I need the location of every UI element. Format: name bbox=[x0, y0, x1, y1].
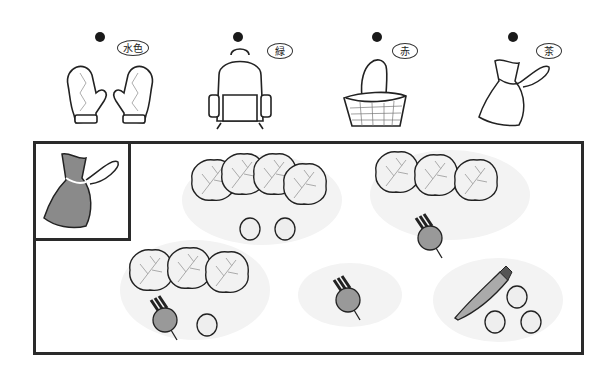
group-5 bbox=[433, 258, 563, 342]
group-1 bbox=[182, 154, 342, 245]
group-3 bbox=[120, 240, 270, 340]
group-4 bbox=[298, 263, 402, 327]
vegetable-groups bbox=[0, 0, 610, 378]
group-2 bbox=[370, 150, 530, 258]
